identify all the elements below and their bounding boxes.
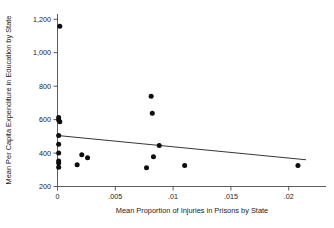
scatter-plot-figure: 1,200 1,000 800 600 400 200 0 .005 .01 .… bbox=[0, 0, 334, 228]
x-tick-label: .005 bbox=[108, 192, 122, 201]
scatter-point bbox=[85, 155, 90, 160]
scatter-points-group bbox=[56, 24, 300, 170]
scatter-point bbox=[151, 154, 156, 159]
scatter-point bbox=[56, 133, 61, 138]
x-tick-label: .02 bbox=[284, 192, 294, 201]
y-tick-label: 1,200 bbox=[33, 15, 51, 24]
scatter-point bbox=[144, 165, 149, 170]
scatter-point bbox=[182, 163, 187, 168]
x-axis-title: Mean Proportion of Injuries in Prisons b… bbox=[116, 206, 268, 215]
y-tick-label: 200 bbox=[39, 182, 51, 191]
scatter-point bbox=[150, 111, 155, 116]
scatter-point bbox=[57, 24, 62, 29]
x-tick-label: 0 bbox=[56, 192, 60, 201]
x-tick-label: .015 bbox=[224, 192, 238, 201]
axes-lines bbox=[58, 14, 327, 187]
plot-canvas: 1,200 1,000 800 600 400 200 0 .005 .01 .… bbox=[0, 0, 334, 228]
scatter-point bbox=[56, 142, 61, 147]
y-tick-label: 400 bbox=[39, 149, 51, 158]
scatter-point bbox=[295, 163, 300, 168]
y-tick-label: 600 bbox=[39, 115, 51, 124]
y-tick-label: 1,000 bbox=[33, 48, 51, 57]
y-tick-label: 800 bbox=[39, 82, 51, 91]
scatter-point bbox=[79, 152, 84, 157]
scatter-point bbox=[75, 162, 80, 167]
scatter-point bbox=[157, 143, 162, 148]
regression-fit-line bbox=[58, 136, 307, 160]
scatter-point bbox=[56, 151, 61, 156]
x-axis-ticks bbox=[58, 187, 289, 191]
x-tick-label: .01 bbox=[168, 192, 178, 201]
y-axis-tick-labels: 1,200 1,000 800 600 400 200 bbox=[33, 15, 51, 191]
y-axis-title: Mean Per Capita Expenditure in Education… bbox=[4, 16, 13, 185]
scatter-point bbox=[57, 119, 62, 124]
x-axis-tick-labels: 0 .005 .01 .015 .02 bbox=[56, 192, 294, 201]
scatter-point bbox=[149, 94, 154, 99]
scatter-point bbox=[56, 165, 61, 170]
